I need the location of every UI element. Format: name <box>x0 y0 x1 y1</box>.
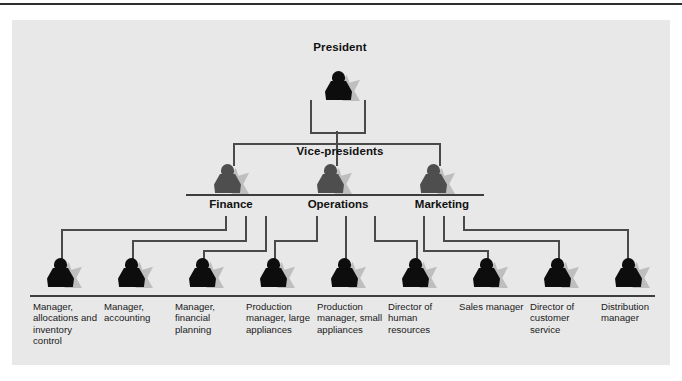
manager-baseline <box>30 295 655 297</box>
manager-icon-9 <box>615 258 655 290</box>
person-head-icon <box>196 258 209 271</box>
person-head-icon <box>338 258 351 271</box>
manager-label-8: Director of customer service <box>530 301 596 335</box>
connector-marketing-rail-mid <box>443 240 558 242</box>
connector-finance-rail-inner <box>203 250 267 252</box>
connector-finance-drop-1 <box>61 229 63 259</box>
vp-label-operations: Operations <box>292 198 384 210</box>
connector-operations-rail-left <box>274 240 318 242</box>
manager-label-6: Director of human resources <box>388 301 454 335</box>
connector-operations-drop-3 <box>416 240 418 259</box>
connector-operations-stem-right <box>374 216 376 241</box>
manager-label-9: Distribution manager <box>601 301 667 324</box>
vp-icon-finance <box>214 164 254 196</box>
manager-icon-6 <box>402 258 442 290</box>
president-pedestal <box>310 100 366 134</box>
manager-label-5: Production manager, small appliances <box>317 301 383 335</box>
connector-marketing-rail-outer <box>463 229 629 231</box>
person-head-icon <box>332 71 345 84</box>
person-head-icon <box>551 258 564 271</box>
connector-marketing-stem-mid <box>443 216 445 241</box>
person-head-icon <box>54 258 67 271</box>
org-chart-figure: President Vice-presidents Finance Operat… <box>0 0 682 381</box>
manager-icon-5 <box>331 258 371 290</box>
person-head-icon <box>480 258 493 271</box>
connector-operations-rail-right <box>374 240 418 242</box>
manager-label-7: Sales manager <box>459 301 525 312</box>
manager-icon-8 <box>544 258 584 290</box>
vp-baseline <box>186 194 484 196</box>
connector-operations-stem-left <box>316 216 318 241</box>
manager-label-4: Production manager, large appliances <box>246 301 312 335</box>
manager-icon-2 <box>118 258 158 290</box>
connector-drop-marketing <box>439 143 441 166</box>
vp-icon-operations <box>317 164 357 196</box>
vp-icon-marketing <box>420 164 460 196</box>
connector-marketing-drop-2 <box>558 240 560 259</box>
manager-icon-4 <box>260 258 300 290</box>
connector-finance-stem-outer <box>225 216 227 230</box>
connector-finance-stem-mid <box>245 216 247 241</box>
connector-marketing-rail-inner <box>423 250 487 252</box>
person-head-icon <box>324 164 337 177</box>
connector-finance-drop-2 <box>132 240 134 259</box>
connector-finance-rail-mid <box>132 240 247 242</box>
connector-marketing-stem-inner <box>423 216 425 251</box>
manager-icon-3 <box>189 258 229 290</box>
connector-operations-stem-center <box>345 216 347 259</box>
connector-marketing-stem-outer <box>463 216 465 230</box>
president-icon <box>325 71 365 103</box>
person-head-icon <box>427 164 440 177</box>
connector-drop-finance <box>233 143 235 166</box>
vp-label-finance: Finance <box>188 198 274 210</box>
person-head-icon <box>622 258 635 271</box>
connector-finance-rail-outer <box>61 229 227 231</box>
person-head-icon <box>409 258 422 271</box>
manager-label-3: Manager, financial planning <box>175 301 241 335</box>
person-head-icon <box>221 164 234 177</box>
manager-label-1: Manager, allocations and inventory contr… <box>33 301 99 347</box>
manager-icon-1 <box>47 258 87 290</box>
vp-label-marketing: Marketing <box>396 198 488 210</box>
person-head-icon <box>267 258 280 271</box>
manager-icon-7 <box>473 258 513 290</box>
manager-label-2: Manager, accounting <box>104 301 170 324</box>
person-head-icon <box>125 258 138 271</box>
connector-finance-stem-inner <box>265 216 267 251</box>
connector-marketing-drop-3 <box>627 229 629 259</box>
top-divider-rule <box>0 3 682 5</box>
vice-presidents-label: Vice-presidents <box>286 145 394 157</box>
president-label: President <box>290 41 390 53</box>
connector-operations-drop-1 <box>274 240 276 259</box>
